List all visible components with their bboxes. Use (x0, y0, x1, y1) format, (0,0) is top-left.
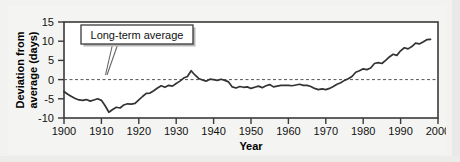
x-tick-label-1970: 1970 (314, 125, 338, 137)
y-axis-title-line1: Deviation from (14, 31, 26, 108)
x-tick-label-2000: 2000 (426, 125, 446, 137)
x-axis-ticks (64, 118, 438, 124)
x-tick-label-1950: 1950 (239, 125, 263, 137)
y-axis-title-line2: average (days) (27, 31, 39, 108)
y-axis-title: Deviation from average (days) (14, 31, 39, 108)
y-tick-label-neg10: -10 (38, 112, 54, 124)
x-tick-label-1920: 1920 (127, 125, 151, 137)
callout-box-label: Long-term average (91, 29, 184, 41)
x-tick-label-1980: 1980 (351, 125, 375, 137)
y-tick-label-10: 10 (42, 35, 54, 47)
figure-bottom-edge (0, 156, 460, 162)
x-tick-label-1990: 1990 (388, 125, 412, 137)
y-tick-label-neg5: -5 (44, 93, 54, 105)
x-tick-label-1910: 1910 (89, 125, 113, 137)
x-tick-label-1930: 1930 (164, 125, 188, 137)
y-axis-ticks (58, 22, 64, 118)
x-tick-label-1900: 1900 (52, 125, 76, 137)
x-tick-label-1940: 1940 (201, 125, 225, 137)
y-tick-label-15: 15 (42, 16, 54, 28)
y-axis-tick-labels: 15 10 5 0 -5 -10 (38, 16, 54, 124)
figure-container: 15 10 5 0 -5 -10 (0, 0, 460, 162)
y-tick-label-5: 5 (48, 54, 54, 66)
figure-right-edge (452, 0, 460, 162)
x-tick-label-1960: 1960 (276, 125, 300, 137)
deviation-from-average-line-chart: 15 10 5 0 -5 -10 (8, 6, 446, 154)
figure-inner-panel: 15 10 5 0 -5 -10 (8, 6, 446, 154)
x-axis-title: Year (239, 140, 263, 152)
y-tick-label-0: 0 (48, 74, 54, 86)
x-axis-tick-labels: 1900 1910 1920 1930 1940 1950 1960 1970 … (52, 125, 446, 137)
